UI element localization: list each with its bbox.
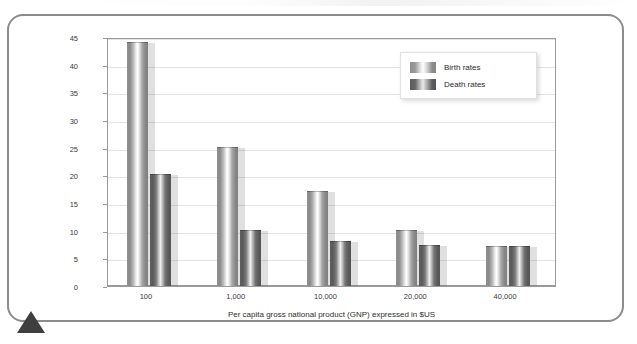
y-axis-tick-mark: [103, 149, 107, 150]
y-axis-tick-label: 10: [52, 227, 78, 236]
y-axis-tick-label: 35: [52, 89, 78, 98]
bar-birth-20000: [396, 230, 417, 286]
bar-death-40000: [509, 246, 530, 286]
legend-swatch-birth-rates: [410, 62, 436, 73]
y-axis-tick-mark: [103, 93, 107, 94]
bar-birth-100: [127, 42, 148, 286]
x-axis-title: Per capita gross national product (GNP) …: [107, 310, 556, 319]
y-axis-tick-label: 0: [52, 283, 78, 292]
bar-death-100: [150, 174, 171, 286]
legend-label-death-rates: Death rates: [444, 80, 485, 89]
y-axis-tick-mark: [103, 232, 107, 233]
bar-birth-40000: [486, 246, 507, 286]
y-axis-tick-mark: [103, 204, 107, 205]
x-axis-tick-label: 40,000: [494, 292, 517, 301]
y-axis-tick-mark: [103, 121, 107, 122]
x-axis-tick-label: 1,000: [226, 292, 245, 301]
bar-chart: Birth rate and death rate (per 1,000 of …: [0, 0, 637, 344]
y-axis-tick-label: 15: [52, 200, 78, 209]
legend-item-death-rates: Death rates: [410, 78, 485, 91]
y-axis-tick-mark: [103, 287, 107, 288]
y-axis-tick-label: 20: [52, 172, 78, 181]
y-axis-tick-label: 45: [52, 34, 78, 43]
gridline: [108, 122, 555, 123]
y-axis-tick-mark: [103, 259, 107, 260]
bar-birth-10000: [307, 191, 328, 286]
bar-death-10000: [330, 241, 351, 286]
x-axis-tick-label: 10,000: [314, 292, 337, 301]
y-axis-tick-label: 30: [52, 117, 78, 126]
chart-legend: Birth rates Death rates: [400, 52, 537, 99]
bar-death-1000: [240, 230, 261, 286]
y-axis-tick-mark: [103, 176, 107, 177]
gridline: [108, 150, 555, 151]
x-axis-tick-label: 20,000: [404, 292, 427, 301]
legend-label-birth-rates: Birth rates: [444, 63, 480, 72]
x-axis-tick-label: 100: [140, 292, 153, 301]
y-axis-tick-mark: [103, 66, 107, 67]
bar-death-20000: [419, 245, 440, 286]
y-axis-tick-mark: [103, 38, 107, 39]
y-axis-title-wrapper: Birth rate and death rate (per 1,000 of …: [68, 38, 82, 287]
y-axis-tick-label: 25: [52, 144, 78, 153]
legend-swatch-death-rates: [410, 79, 436, 90]
bar-birth-1000: [217, 147, 238, 286]
legend-item-birth-rates: Birth rates: [410, 61, 480, 74]
y-axis-tick-label: 40: [52, 61, 78, 70]
gridline: [108, 39, 555, 40]
y-axis-tick-label: 5: [52, 255, 78, 264]
